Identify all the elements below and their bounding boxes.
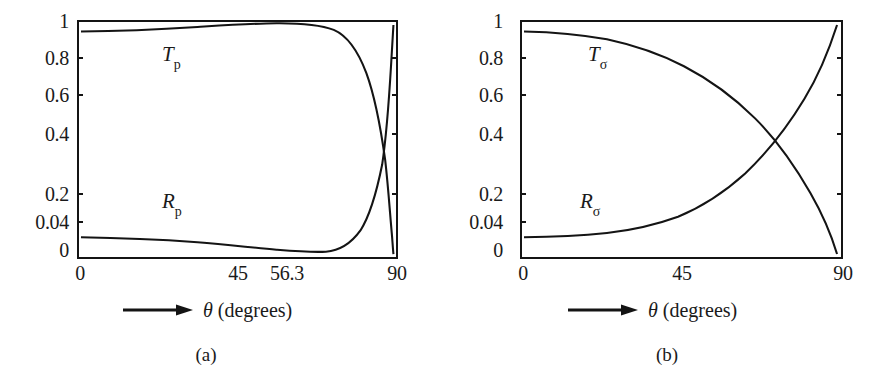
curve-label-Rsigma-base: R <box>580 189 593 213</box>
curve-Tsigma <box>524 31 837 254</box>
ytick-mark-b-right-0p2 <box>837 193 843 195</box>
ytick-mark-a-0p2 <box>77 193 83 195</box>
ytick-mark-a-0p8 <box>77 57 83 59</box>
figure-fresnel-curves: 1 0.8 0.6 0.4 0.2 0.04 0 0 45 56.3 90 Tp… <box>0 0 878 385</box>
curve-Rp <box>81 25 393 252</box>
axis-title-a-units: (degrees) <box>213 299 292 321</box>
ytick-mark-a-1 <box>77 20 83 22</box>
ytick-mark-a-0p6 <box>77 94 83 96</box>
curve-label-Rsigma-sub: σ <box>593 204 601 219</box>
curve-label-Rp: Rp <box>162 191 182 216</box>
ytick-mark-a-right-0p4 <box>392 133 398 135</box>
ytick-label-b-0p2: 0.2 <box>479 184 503 204</box>
ytick-label-b-0p8: 0.8 <box>479 48 503 68</box>
ytick-label-a-0p2: 0.2 <box>45 184 69 204</box>
ytick-label-a-0p6: 0.6 <box>45 85 69 105</box>
ytick-mark-a-0p04 <box>77 221 83 223</box>
ytick-mark-b-right-0p4 <box>837 133 843 135</box>
xtick-label-a-45: 45 <box>228 263 247 283</box>
plot-curves-a <box>79 22 396 257</box>
curve-Tp <box>81 23 393 254</box>
axis-title-a: θ (degrees) <box>203 300 292 320</box>
ytick-label-b-0p6: 0.6 <box>479 85 503 105</box>
curve-Rsigma <box>524 25 837 237</box>
ytick-label-a-0p8: 0.8 <box>45 48 69 68</box>
ytick-label-b-1: 1 <box>493 11 503 31</box>
plot-frame-a <box>77 20 398 259</box>
ytick-label-a-0: 0 <box>59 240 69 260</box>
xtick-label-a-90: 90 <box>387 263 406 283</box>
axis-title-row-a: θ (degrees) <box>122 300 292 320</box>
panel-caption-b: (b) <box>448 345 878 364</box>
ytick-mark-b-0p8 <box>520 57 526 59</box>
curve-label-Tsigma-sub: σ <box>600 57 608 72</box>
ytick-mark-a-right-0p2 <box>392 193 398 195</box>
axis-title-b: θ (degrees) <box>648 300 737 320</box>
panel-a: 1 0.8 0.6 0.4 0.2 0.04 0 0 45 56.3 90 Tp… <box>0 0 440 385</box>
theta-symbol-a: θ <box>203 299 213 321</box>
axis-title-b-units: (degrees) <box>658 299 737 321</box>
ytick-label-b-0p04: 0.04 <box>469 212 503 232</box>
right-arrow-icon <box>122 303 194 317</box>
xtick-label-b-45: 45 <box>672 263 691 283</box>
theta-symbol-b: θ <box>648 299 658 321</box>
curve-label-Rsigma: Rσ <box>580 191 600 216</box>
ytick-mark-a-0 <box>77 257 83 259</box>
ytick-label-a-0p4: 0.4 <box>45 124 69 144</box>
ytick-mark-b-0 <box>520 257 526 259</box>
ytick-mark-b-0p04 <box>520 221 526 223</box>
ytick-label-b-0: 0 <box>493 240 503 260</box>
curve-label-Tsigma: Tσ <box>588 44 607 69</box>
ytick-label-a-1: 1 <box>59 11 69 31</box>
ytick-mark-a-right-0p6 <box>392 94 398 96</box>
curve-label-Rp-base: R <box>162 189 175 213</box>
ytick-mark-b-0p2 <box>520 193 526 195</box>
ytick-mark-b-right-0p8 <box>837 57 843 59</box>
axis-title-row-b: θ (degrees) <box>567 300 737 320</box>
ytick-mark-b-0p6 <box>520 94 526 96</box>
curve-label-Tsigma-base: T <box>588 42 600 66</box>
ytick-mark-a-right-0p8 <box>392 57 398 59</box>
xtick-label-b-90: 90 <box>833 263 852 283</box>
xtick-label-a-0: 0 <box>75 263 85 283</box>
plot-curves-b <box>522 22 841 257</box>
curve-label-Tp: Tp <box>162 44 181 69</box>
plot-frame-b <box>520 20 843 259</box>
ytick-label-b-0p4: 0.4 <box>479 124 503 144</box>
xtick-label-a-56p3: 56.3 <box>270 263 304 283</box>
ytick-mark-b-right-0p6 <box>837 94 843 96</box>
panel-b: 1 0.8 0.6 0.4 0.2 0.04 0 0 45 90 Tσ Rσ <box>440 0 878 385</box>
curve-label-Rp-sub: p <box>175 204 182 219</box>
curve-label-Tp-sub: p <box>174 57 181 72</box>
ytick-label-a-0p04: 0.04 <box>35 212 69 232</box>
ytick-mark-b-1 <box>520 20 526 22</box>
right-arrow-icon <box>567 303 639 317</box>
panel-caption-a: (a) <box>0 345 426 364</box>
xtick-label-b-0: 0 <box>518 263 528 283</box>
curve-label-Tp-base: T <box>162 42 174 66</box>
